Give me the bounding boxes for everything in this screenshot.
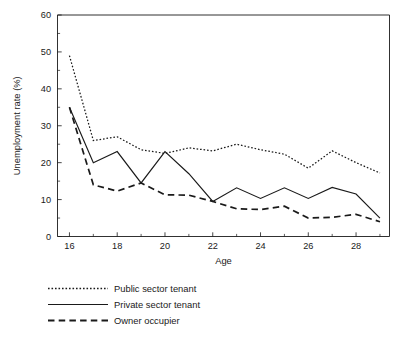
legend-label-private-sector-tenant: Private sector tenant (114, 299, 200, 310)
chart-figure: 0102030405060 16182022242628 Age Unemplo… (0, 0, 403, 339)
series-line-owner-occupier (69, 107, 380, 221)
x-tick-label: 18 (112, 241, 122, 251)
y-tick-label: 20 (41, 158, 51, 168)
legend-label-owner-occupier: Owner occupier (114, 315, 180, 326)
y-tick-label: 0 (46, 232, 51, 242)
x-axis-title: Age (215, 255, 232, 266)
line-chart-svg: 0102030405060 16182022242628 Age Unemplo… (0, 0, 403, 339)
x-tick-label: 16 (64, 241, 74, 251)
x-axis-tick-labels: 16182022242628 (64, 241, 361, 251)
series-line-public-sector-tenant (69, 56, 380, 173)
x-tick-label: 28 (351, 241, 361, 251)
series-line-private-sector-tenant (69, 107, 380, 218)
y-axis-ticks (58, 15, 62, 237)
y-tick-label: 40 (41, 84, 51, 94)
legend-label-public-sector-tenant: Public sector tenant (114, 283, 197, 294)
x-tick-label: 24 (255, 241, 265, 251)
y-axis-title: Unemployment rate (%) (11, 76, 22, 175)
data-series-group (69, 56, 380, 222)
plot-frame (58, 15, 390, 237)
plot-frame-box (58, 15, 390, 237)
chart-legend: Public sector tenant Private sector tena… (48, 283, 200, 326)
x-tick-label: 20 (160, 241, 170, 251)
y-tick-label: 30 (41, 121, 51, 131)
y-tick-label: 10 (41, 195, 51, 205)
y-axis-tick-labels: 0102030405060 (41, 10, 51, 242)
y-tick-label: 60 (41, 10, 51, 20)
x-tick-label: 26 (303, 241, 313, 251)
y-tick-label: 50 (41, 47, 51, 57)
x-axis-ticks (69, 232, 380, 236)
x-tick-label: 22 (208, 241, 218, 251)
